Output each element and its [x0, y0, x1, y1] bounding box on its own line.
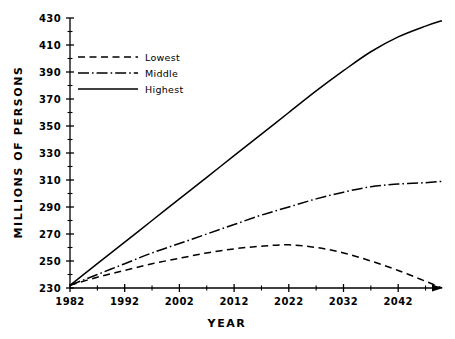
x-tick-label: 2032 [329, 296, 358, 307]
x-tick-label: 2002 [165, 296, 194, 307]
legend-label-middle: Middle [145, 68, 178, 79]
x-tick-label: 1982 [55, 296, 84, 307]
x-tick-label: 2042 [383, 296, 412, 307]
x-tick-label: 2022 [274, 296, 303, 307]
chart-legend: LowestMiddleHighest [78, 52, 183, 95]
y-tick-label: 390 [39, 67, 61, 78]
series-line-highest [70, 21, 442, 286]
series-line-lowest [70, 245, 442, 288]
y-tick-label: 330 [39, 148, 61, 159]
y-tick-label: 270 [39, 229, 61, 240]
y-tick-label: 250 [39, 256, 61, 267]
y-tick-label: 410 [39, 40, 61, 51]
x-axis-tick-labels: 1982199220022012202220322042 [55, 296, 413, 307]
y-axis-title: MILLIONS OF PERSONS [12, 65, 25, 238]
line-chart: 230250270290310330350370390410430 198219… [0, 0, 455, 339]
legend-label-lowest: Lowest [145, 52, 180, 63]
y-tick-label: 310 [39, 175, 61, 186]
y-axis-tick-labels: 230250270290310330350370390410430 [39, 13, 61, 294]
y-axis: 230250270290310330350370390410430 [39, 13, 74, 294]
y-tick-label: 350 [39, 121, 61, 132]
y-tick-label: 230 [39, 283, 61, 294]
x-tick-label: 2012 [219, 296, 248, 307]
x-tick-label: 1992 [110, 296, 139, 307]
x-axis: 1982199220022012202220322042 [55, 284, 443, 307]
chart-container: 230250270290310330350370390410430 198219… [0, 0, 455, 339]
x-axis-title: YEAR [207, 317, 247, 330]
y-tick-label: 370 [39, 94, 61, 105]
data-series-group [70, 21, 442, 288]
y-tick-label: 290 [39, 202, 61, 213]
legend-label-highest: Highest [145, 84, 183, 95]
y-tick-label: 430 [39, 13, 61, 24]
